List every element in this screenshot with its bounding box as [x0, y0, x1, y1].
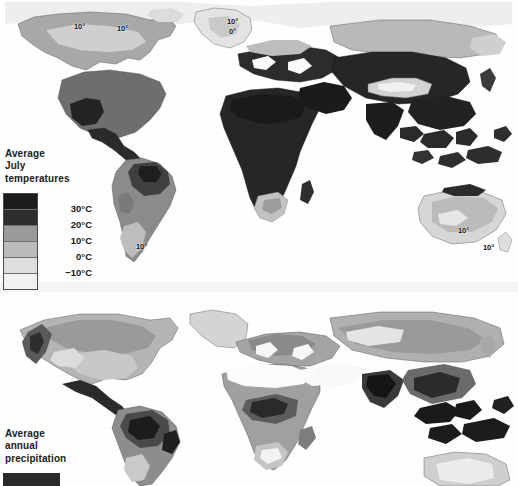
legend-july-labels: 30°C 20°C 10°C 0°C −10°C — [45, 201, 92, 281]
legend-july-swatches — [3, 193, 38, 290]
legend-swatch-below-minus10c — [4, 274, 37, 289]
legend-label-30c: 30°C — [45, 201, 92, 217]
legend-precip-swatch-highest — [3, 473, 60, 486]
legend-july-body: 30°C 20°C 10°C 0°C −10°C — [3, 193, 109, 290]
legend-july-title-line-2: July — [5, 160, 109, 172]
legend-swatch-minus10c — [4, 258, 37, 274]
legend-july-title-line-1: Average — [5, 148, 109, 160]
legend-label-0c: 0°C — [45, 249, 92, 265]
climate-maps-figure: 10° 10° 10° 0° 10° 10° 10° — [0, 0, 518, 486]
legend-annual-precipitation: Average annual precipitation — [3, 428, 109, 486]
legend-precip-swatches — [3, 473, 60, 486]
legend-swatch-30c — [4, 194, 37, 210]
legend-label-minus10c: −10°C — [45, 265, 92, 281]
legend-july-title-line-3: temperatures — [5, 173, 109, 185]
legend-precip-title: Average annual precipitation — [5, 428, 109, 465]
legend-swatch-20c — [4, 210, 37, 226]
legend-swatch-0c — [4, 242, 37, 258]
legend-precip-body — [3, 473, 109, 486]
legend-label-20c: 20°C — [45, 217, 92, 233]
legend-precip-title-line-2: annual — [5, 440, 109, 452]
legend-july-temperatures: Average July temperatures 30°C 20°C 10°C… — [3, 148, 109, 290]
legend-label-10c: 10°C — [45, 233, 92, 249]
legend-july-title: Average July temperatures — [5, 148, 109, 185]
legend-precip-title-line-1: Average — [5, 428, 109, 440]
legend-precip-title-line-3: precipitation — [5, 453, 109, 465]
legend-swatch-10c — [4, 226, 37, 242]
